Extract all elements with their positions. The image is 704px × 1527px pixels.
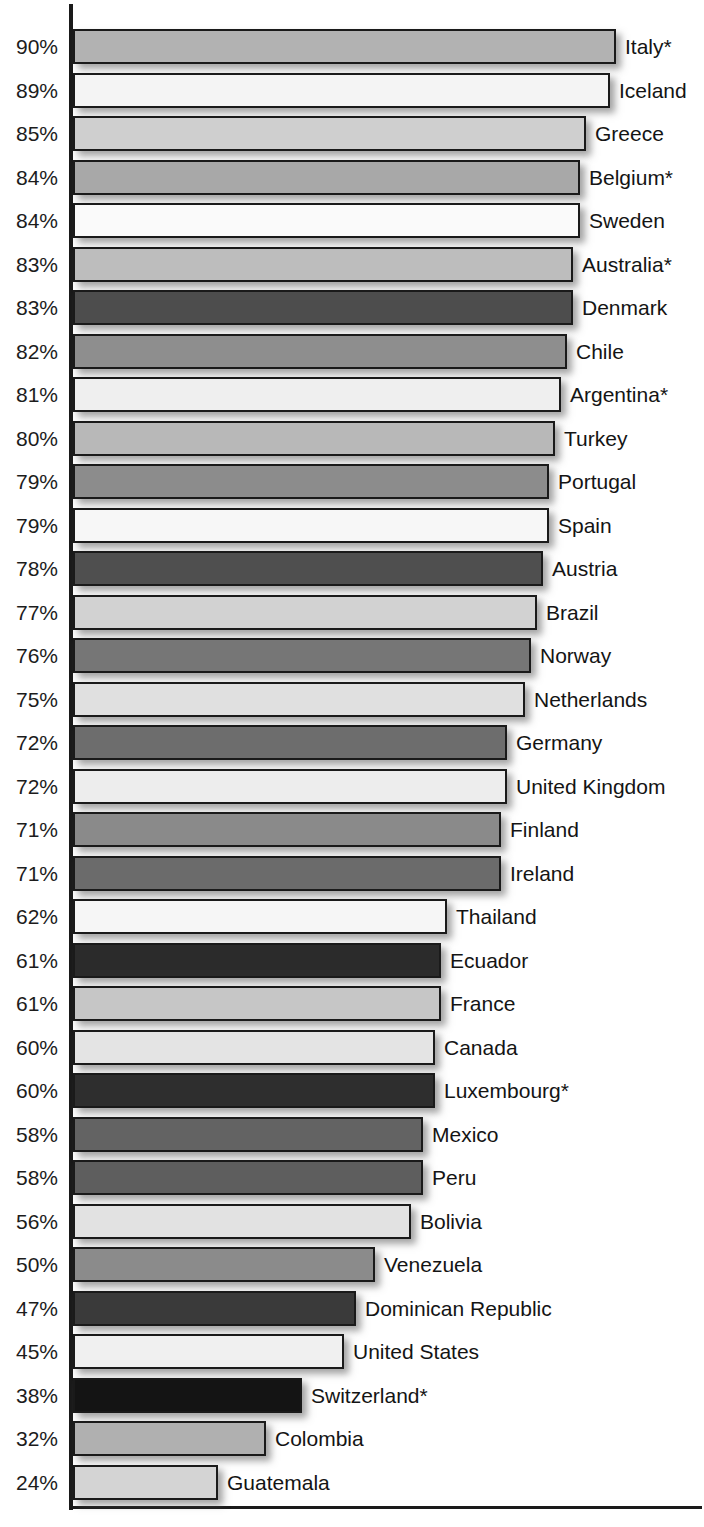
bar-value-label: 83% bbox=[0, 287, 58, 328]
bar-value-label: 50% bbox=[0, 1244, 58, 1285]
bar-row: 79%Portugal bbox=[0, 461, 704, 502]
bar-category-label: Finland bbox=[501, 809, 579, 850]
bar-value-label: 83% bbox=[0, 244, 58, 285]
bar-wrapper bbox=[73, 1291, 356, 1326]
bar bbox=[73, 1465, 218, 1500]
bar-row: 47%Dominican Republic bbox=[0, 1288, 704, 1329]
bar-value-label: 75% bbox=[0, 679, 58, 720]
bar-category-label: Luxembourg* bbox=[435, 1070, 569, 1111]
bar-category-label: Germany bbox=[507, 722, 602, 763]
bar bbox=[73, 1073, 435, 1108]
bar-row: 83%Australia* bbox=[0, 244, 704, 285]
bar-value-label: 32% bbox=[0, 1418, 58, 1459]
bar-row: 89%Iceland bbox=[0, 70, 704, 111]
bar-category-label: Ireland bbox=[501, 853, 574, 894]
bar-value-label: 47% bbox=[0, 1288, 58, 1329]
bar-row: 76%Norway bbox=[0, 635, 704, 676]
bar bbox=[73, 290, 573, 325]
bar-category-label: Denmark bbox=[573, 287, 667, 328]
bar bbox=[73, 856, 501, 891]
bar bbox=[73, 638, 531, 673]
bar-category-label: Iceland bbox=[610, 70, 687, 111]
bar-category-label: Bolivia bbox=[411, 1201, 482, 1242]
bar bbox=[73, 1291, 356, 1326]
bar-wrapper bbox=[73, 377, 561, 412]
bar-row: 79%Spain bbox=[0, 505, 704, 546]
bar-wrapper bbox=[73, 682, 525, 717]
bar-wrapper bbox=[73, 203, 580, 238]
bar bbox=[73, 1421, 266, 1456]
bar-value-label: 79% bbox=[0, 505, 58, 546]
bar bbox=[73, 377, 561, 412]
bar-wrapper bbox=[73, 160, 580, 195]
bar-category-label: Sweden bbox=[580, 200, 665, 241]
bar bbox=[73, 986, 441, 1021]
bar-wrapper bbox=[73, 421, 555, 456]
bar-row: 50%Venezuela bbox=[0, 1244, 704, 1285]
bar-rows-container: 90%Italy*89%Iceland85%Greece84%Belgium*8… bbox=[0, 0, 704, 1527]
bar bbox=[73, 116, 586, 151]
bar bbox=[73, 73, 610, 108]
bar bbox=[73, 943, 441, 978]
bar-value-label: 45% bbox=[0, 1331, 58, 1372]
bar-category-label: France bbox=[441, 983, 515, 1024]
bar-value-label: 90% bbox=[0, 26, 58, 67]
bar-category-label: Argentina* bbox=[561, 374, 668, 415]
bar-wrapper bbox=[73, 1030, 435, 1065]
bar bbox=[73, 1160, 423, 1195]
bar-category-label: United States bbox=[344, 1331, 479, 1372]
bar-wrapper bbox=[73, 247, 573, 282]
bar-category-label: Switzerland* bbox=[302, 1375, 428, 1416]
bar-value-label: 72% bbox=[0, 722, 58, 763]
bar-wrapper bbox=[73, 116, 586, 151]
bar-row: 38%Switzerland* bbox=[0, 1375, 704, 1416]
bar-row: 61%France bbox=[0, 983, 704, 1024]
bar-wrapper bbox=[73, 464, 549, 499]
bar-value-label: 78% bbox=[0, 548, 58, 589]
bar-category-label: United Kingdom bbox=[507, 766, 665, 807]
bar-wrapper bbox=[73, 1117, 423, 1152]
bar bbox=[73, 421, 555, 456]
bar bbox=[73, 725, 507, 760]
bar-row: 61%Ecuador bbox=[0, 940, 704, 981]
bar-value-label: 79% bbox=[0, 461, 58, 502]
bar-row: 62%Thailand bbox=[0, 896, 704, 937]
bar-value-label: 60% bbox=[0, 1070, 58, 1111]
bar-wrapper bbox=[73, 943, 441, 978]
bar-wrapper bbox=[73, 1421, 266, 1456]
bar-row: 60%Luxembourg* bbox=[0, 1070, 704, 1111]
bar-category-label: Italy* bbox=[616, 26, 672, 67]
bar-row: 58%Peru bbox=[0, 1157, 704, 1198]
bar-category-label: Dominican Republic bbox=[356, 1288, 552, 1329]
bar-wrapper bbox=[73, 73, 610, 108]
bar-row: 71%Ireland bbox=[0, 853, 704, 894]
bar-wrapper bbox=[73, 290, 573, 325]
bar-wrapper bbox=[73, 508, 549, 543]
bar-category-label: Guatemala bbox=[218, 1462, 330, 1503]
bar-row: 24%Guatemala bbox=[0, 1462, 704, 1503]
bar-wrapper bbox=[73, 551, 543, 586]
bar-value-label: 71% bbox=[0, 809, 58, 850]
bar-row: 81%Argentina* bbox=[0, 374, 704, 415]
bar bbox=[73, 464, 549, 499]
bar-category-label: Canada bbox=[435, 1027, 518, 1068]
bar-wrapper bbox=[73, 1073, 435, 1108]
bar bbox=[73, 1247, 375, 1282]
bar-row: 83%Denmark bbox=[0, 287, 704, 328]
bar-category-label: Chile bbox=[567, 331, 624, 372]
bar-value-label: 60% bbox=[0, 1027, 58, 1068]
bar-value-label: 80% bbox=[0, 418, 58, 459]
bar-row: 78%Austria bbox=[0, 548, 704, 589]
bar-row: 58%Mexico bbox=[0, 1114, 704, 1155]
bar-value-label: 76% bbox=[0, 635, 58, 676]
bar-row: 84%Belgium* bbox=[0, 157, 704, 198]
bar-category-label: Ecuador bbox=[441, 940, 528, 981]
bar-chart: 90%Italy*89%Iceland85%Greece84%Belgium*8… bbox=[0, 0, 704, 1527]
bar-category-label: Australia* bbox=[573, 244, 672, 285]
bar-wrapper bbox=[73, 334, 567, 369]
bar-wrapper bbox=[73, 856, 501, 891]
bar bbox=[73, 29, 616, 64]
bar bbox=[73, 203, 580, 238]
bar-category-label: Venezuela bbox=[375, 1244, 482, 1285]
bar-row: 77%Brazil bbox=[0, 592, 704, 633]
